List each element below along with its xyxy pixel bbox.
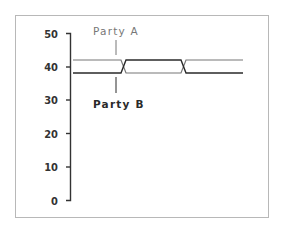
chart: 50 40 30 20 10 0 Party A Party B	[0, 0, 283, 230]
y-tick-label-40: 40	[44, 61, 58, 74]
y-tick-label-0: 0	[51, 195, 58, 208]
y-tick-label-30: 30	[44, 94, 58, 107]
y-tick-label-10: 10	[44, 161, 58, 174]
chart-frame	[16, 16, 269, 218]
label-party-a: Party A	[93, 25, 139, 37]
y-tick-label-50: 50	[44, 28, 58, 41]
y-tick-label-20: 20	[44, 128, 58, 141]
label-party-b: Party B	[93, 98, 145, 110]
